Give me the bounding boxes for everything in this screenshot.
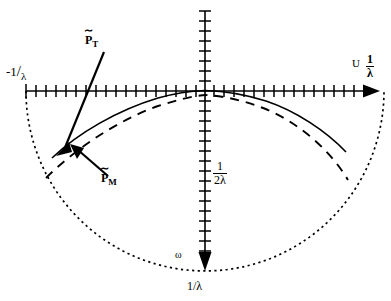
tilde-accent-icon: ∼ [84,25,93,36]
axis-label-minus-one-over-lambda: -1/λ [6,64,26,79]
axis-label-omega: ω [175,250,182,260]
ewald-construction-figure: -1/λ U 1 λ ∼PT ∼PM 1 2λ ω 1/λ [0,0,391,301]
axis-label-u: U [352,58,360,69]
axis-label-one-over-lambda-right: 1 λ [366,53,374,79]
lambda-text: λ [21,70,26,82]
fraction-denominator: λ [366,67,374,80]
curve-label-p-tilde-m: ∼PM [101,172,117,187]
curve-label-p-tilde-t: ∼PT [85,34,98,49]
p-subscript-text: M [108,177,117,187]
p-subscript-text: T [92,39,98,49]
tilde-accent-icon: ∼ [100,163,109,174]
axis-label-one-over-lambda-bottom: 1/λ [187,280,202,292]
axis-label-one-over-two-lambda: 1 2λ [213,160,227,186]
curve-p-tilde-m-dashed [46,95,348,180]
vertical-axis [199,11,212,271]
fraction-denominator: 2λ [213,174,227,187]
fraction-numerator: 1 [366,53,374,67]
minus-one-text: -1 [6,64,17,79]
leader-arrow-p-tilde-t [56,52,104,156]
diagram-canvas [0,0,391,301]
fraction-numerator: 1 [213,160,227,174]
